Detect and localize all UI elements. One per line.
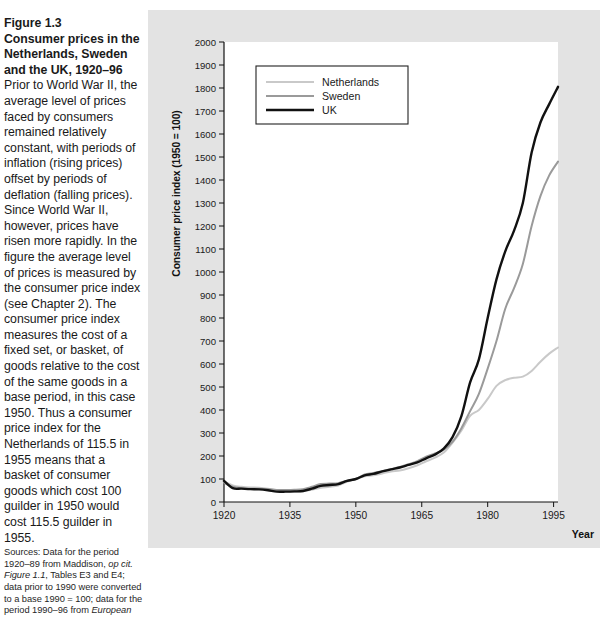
sources-italic-european: European [91,605,131,615]
legend-label-uk: UK [322,104,337,116]
y-tick-label: 1500 [195,152,216,163]
figure-panel: Consumer price index (1950 = 100) Year 0… [148,10,600,548]
y-tick-label: 1800 [195,83,216,94]
x-tick-label: 1920 [213,510,236,521]
sources-italic-opcit: op cit. [108,559,132,569]
y-tick-label: 1400 [195,175,216,186]
figure-sources: Sources: Data for the period 1920–89 fro… [4,547,144,617]
legend-label-netherlands: Netherlands [322,76,379,88]
x-tick-label: 1950 [345,510,368,521]
y-tick-label: 500 [200,382,216,393]
y-tick-label: 1900 [195,60,216,71]
y-tick-label: 100 [200,474,216,485]
y-axis-ticks: 0100200300400500600700800900100011001200… [195,37,224,508]
x-tick-label: 1995 [542,510,565,521]
y-tick-label: 1200 [195,221,216,232]
y-tick-label: 1000 [195,267,216,278]
figure-number: Figure 1.3 [4,16,144,32]
caption-column: Figure 1.3 Consumer prices in the Nether… [4,16,144,617]
y-tick-label: 1700 [195,106,216,117]
x-tick-label: 1980 [476,510,499,521]
line-chart: 0100200300400500600700800900100011001200… [148,10,600,548]
y-tick-label: 300 [200,428,216,439]
x-tick-label: 1935 [279,510,302,521]
legend: NetherlandsSwedenUK [256,66,408,124]
y-tick-label: 1600 [195,129,216,140]
y-tick-label: 400 [200,405,216,416]
y-tick-label: 0 [211,497,216,508]
y-tick-label: 700 [200,336,216,347]
y-tick-label: 600 [200,359,216,370]
y-tick-label: 900 [200,290,216,301]
figure-description: Prior to World War II, the average level… [4,78,144,546]
y-tick-label: 200 [200,451,216,462]
sources-italic-figure: Figure 1.1 [4,570,45,580]
x-tick-label: 1965 [410,510,433,521]
y-tick-label: 2000 [195,37,216,48]
y-tick-label: 1300 [195,198,216,209]
x-axis-ticks: 192019351950196519801995 [213,502,566,521]
y-tick-label: 1100 [195,244,216,255]
sources-label: Sources: [4,547,40,557]
figure-title: Consumer prices in the Netherlands, Swed… [4,32,144,79]
plot-wrapper: Consumer price index (1950 = 100) Year 0… [148,10,600,548]
y-tick-label: 800 [200,313,216,324]
legend-label-sweden: Sweden [322,90,360,102]
